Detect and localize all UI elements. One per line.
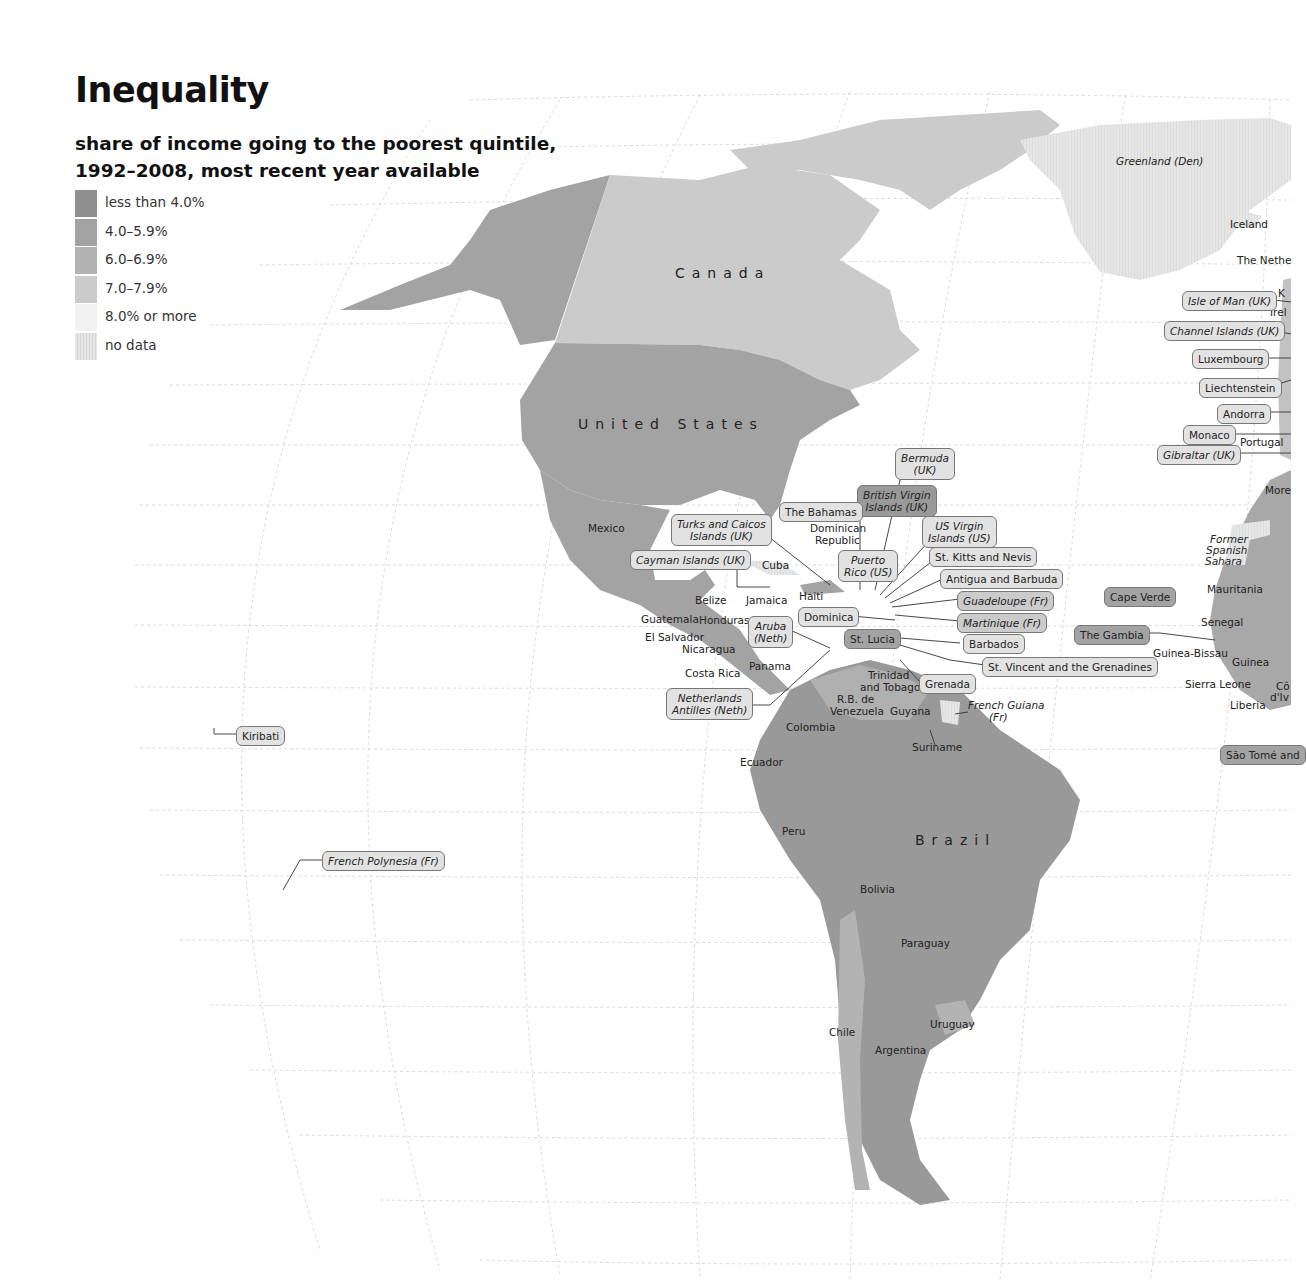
label-cuba: Cuba — [762, 559, 789, 571]
label-iceland: Iceland — [1230, 218, 1268, 230]
label-guinea: Guinea — [1232, 656, 1269, 668]
callout-andorra: Andorra — [1217, 404, 1271, 424]
legend-label: 7.0–7.9% — [105, 280, 168, 296]
callout-gibraltar-uk: Gibraltar (UK) — [1157, 445, 1241, 465]
callout-martinique-fr: Martinique (Fr) — [957, 613, 1047, 633]
callout-aruba-neth: Aruba(Neth) — [748, 616, 793, 648]
label-d-iv: d'Iv — [1270, 691, 1289, 703]
subtitle-line-1: share of income going to the poorest qui… — [75, 130, 556, 157]
legend-swatch — [75, 333, 97, 360]
label-guatemala: Guatemala — [641, 613, 699, 625]
label-colombia: Colombia — [786, 721, 835, 733]
map-subtitle: share of income going to the poorest qui… — [75, 130, 556, 184]
label-costa-rica: Costa Rica — [685, 667, 741, 679]
label-jamaica: Jamaica — [746, 594, 787, 606]
callout-british-virgin-islands-uk: British VirginIslands (UK) — [857, 485, 937, 517]
callout-netherlands-antilles-neth: NetherlandsAntilles (Neth) — [666, 688, 753, 720]
label-k: K — [1278, 287, 1285, 299]
label-trinidad: Trinidad — [868, 669, 909, 681]
callout-s-o-tom-and: São Tomé and — [1220, 745, 1306, 765]
callout-puerto-rico-us: PuertoRico (US) — [838, 550, 898, 582]
callout-bermuda-uk: Bermuda(UK) — [895, 448, 955, 480]
callout-guadeloupe-fr: Guadeloupe (Fr) — [957, 591, 1054, 611]
label-chile: Chile — [829, 1026, 855, 1038]
label-fr: (Fr) — [989, 711, 1008, 723]
legend-swatch — [75, 304, 97, 331]
label-paraguay: Paraguay — [901, 937, 950, 949]
legend-label: 6.0–6.9% — [105, 251, 168, 267]
callout-luxembourg: Luxembourg — [1192, 349, 1269, 369]
label-mauritania: Mauritania — [1207, 583, 1263, 595]
label-el-salvador: El Salvador — [645, 631, 704, 643]
label-guinea-bissau: Guinea-Bissau — [1153, 647, 1228, 659]
callout-the-bahamas: The Bahamas — [779, 502, 863, 522]
label-argentina: Argentina — [875, 1044, 926, 1056]
label-r-b-de: R.B. de — [837, 693, 874, 705]
label-sierra-leone: Sierra Leone — [1185, 678, 1251, 690]
callout-turks-and-caicos-islands-uk: Turks and CaicosIslands (UK) — [671, 514, 772, 546]
label-belize: Belize — [695, 594, 726, 606]
legend-label: no data — [105, 337, 157, 353]
map-title: Inequality — [75, 70, 269, 110]
callout-liechtenstein: Liechtenstein — [1199, 378, 1282, 398]
legend-swatch — [75, 276, 97, 303]
callout-dominica: Dominica — [798, 607, 859, 627]
label-french-guiana: French Guiana — [968, 699, 1044, 711]
label-canada: Canada — [675, 267, 770, 279]
callout-grenada: Grenada — [919, 674, 976, 694]
label-nicaragua: Nicaragua — [682, 643, 735, 655]
callout-st-vincent-and-the-grenadines: St. Vincent and the Grenadines — [982, 657, 1158, 677]
legend-label: 4.0–5.9% — [105, 223, 168, 239]
callout-st-kitts-and-nevis: St. Kitts and Nevis — [929, 547, 1037, 567]
label-more: More — [1265, 484, 1291, 496]
label-united-states: United States — [578, 418, 764, 430]
label-brazil: Brazil — [915, 834, 996, 846]
legend-swatch — [75, 219, 97, 246]
label-bolivia: Bolivia — [860, 883, 895, 895]
label-honduras: Honduras — [699, 614, 750, 626]
callout-isle-of-man-uk: Isle of Man (UK) — [1182, 291, 1277, 311]
label-panama: Panama — [749, 660, 791, 672]
label-liberia: Liberia — [1230, 699, 1266, 711]
label-greenland-den: Greenland (Den) — [1116, 155, 1203, 167]
label-suriname: Suriname — [912, 741, 962, 753]
label-republic: Republic — [815, 534, 860, 546]
label-senegal: Senegal — [1201, 616, 1243, 628]
label-haiti: Haiti — [799, 590, 823, 602]
label-ecuador: Ecuador — [740, 756, 783, 768]
callout-cape-verde: Cape Verde — [1104, 587, 1176, 607]
label-venezuela: Venezuela — [830, 705, 884, 717]
label-the-nethe: The Nethe — [1237, 254, 1291, 266]
callout-cayman-islands-uk: Cayman Islands (UK) — [630, 550, 751, 570]
subtitle-line-2: 1992–2008, most recent year available — [75, 157, 556, 184]
region-french-guiana — [940, 700, 960, 725]
callout-kiribati: Kiribati — [236, 726, 285, 746]
label-and-tobago: and Tobago — [860, 681, 920, 693]
label-peru: Peru — [782, 825, 805, 837]
callout-monaco: Monaco — [1183, 425, 1236, 445]
legend-swatch — [75, 190, 97, 217]
label-guyana: Guyana — [890, 705, 931, 717]
label-dominican: Dominican — [810, 522, 866, 534]
callout-channel-islands-uk: Channel Islands (UK) — [1164, 321, 1285, 341]
callout-us-virgin-islands-us: US VirginIslands (US) — [922, 516, 997, 548]
callout-the-gambia: The Gambia — [1074, 625, 1150, 645]
legend-label: less than 4.0% — [105, 194, 205, 210]
legend-label: 8.0% or more — [105, 308, 197, 324]
legend-swatch — [75, 247, 97, 274]
label-sahara: Sahara — [1205, 555, 1242, 567]
callout-antigua-and-barbuda: Antigua and Barbuda — [940, 569, 1063, 589]
callout-barbados: Barbados — [963, 634, 1025, 654]
label-portugal: Portugal — [1240, 436, 1284, 448]
callout-french-polynesia-fr: French Polynesia (Fr) — [322, 851, 445, 871]
label-mexico: Mexico — [588, 522, 625, 534]
callout-st-lucia: St. Lucia — [844, 629, 901, 649]
label-uruguay: Uruguay — [930, 1018, 975, 1030]
